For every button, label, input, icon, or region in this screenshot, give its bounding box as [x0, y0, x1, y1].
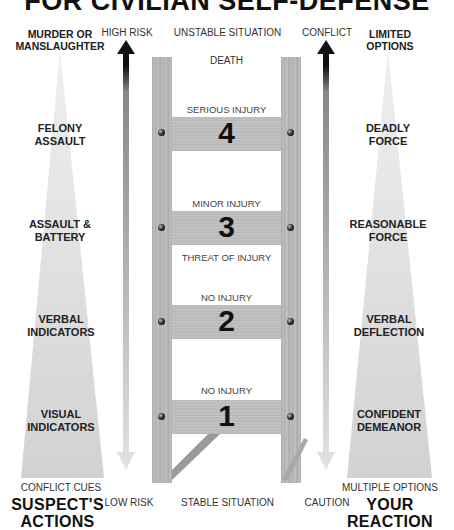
right-top-label: LIMITED OPTIONS: [362, 28, 418, 52]
rung-3: 3: [172, 211, 281, 245]
unstable-situation-label: UNSTABLE SITUATION: [170, 27, 285, 38]
rung-1: 1: [172, 400, 281, 434]
rung-4-label: SERIOUS INJURY: [172, 104, 281, 115]
bolt-icon: [287, 413, 294, 420]
ladder-brace: [170, 434, 310, 484]
rung-2-label: NO INJURY: [172, 292, 281, 303]
bolt-icon: [158, 129, 165, 136]
right-level-confident-demeanor: CONFIDENT DEMEANOR: [350, 408, 428, 434]
conflict-label: CONFLICT: [300, 27, 354, 38]
left-level-visual-indicators: VISUAL INDICATORS: [20, 408, 102, 434]
right-level-reasonable-force: REASONABLE FORCE: [346, 218, 430, 244]
right-level-verbal-deflection: VERBAL DEFLECTION: [350, 313, 428, 339]
bolt-icon: [158, 224, 165, 231]
left-level-felony-assault: FELONY ASSAULT: [20, 122, 100, 148]
rung-4: 4: [172, 117, 281, 151]
diagram-title: FOR CIVILIAN SELF-DEFENSE: [0, 0, 454, 17]
rung-3-number: 3: [172, 210, 281, 244]
bolt-icon: [287, 129, 294, 136]
bolt-icon: [287, 318, 294, 325]
multiple-options-label: MULTIPLE OPTIONS: [342, 482, 438, 493]
left-level-assault-battery: ASSAULT & BATTERY: [20, 218, 100, 244]
bolt-icon: [158, 413, 165, 420]
rung-3-label: MINOR INJURY: [172, 198, 281, 209]
high-risk-label: HIGH RISK: [100, 27, 154, 38]
rung-2-number: 2: [172, 304, 281, 338]
rung-4-top-label: DEATH: [172, 55, 281, 66]
right-level-deadly-force: DEADLY FORCE: [352, 122, 424, 148]
rung-4-number: 4: [172, 116, 281, 150]
low-risk-label: LOW RISK: [104, 497, 154, 508]
stable-situation-label: STABLE SITUATION: [170, 497, 285, 508]
conflict-arrow: [317, 40, 335, 472]
left-level-verbal-indicators: VERBAL INDICATORS: [20, 313, 102, 339]
conflict-cues-label: CONFLICT CUES: [15, 482, 107, 493]
bolt-icon: [158, 318, 165, 325]
rung-1-label: NO INJURY: [172, 385, 281, 396]
rung-1-number: 1: [172, 399, 281, 433]
rung-2: 2: [172, 305, 281, 339]
bolt-icon: [287, 224, 294, 231]
risk-arrow: [117, 40, 135, 472]
your-reaction-heading: YOUR REACTION: [345, 496, 435, 530]
suspects-actions-heading: SUSPECT'S ACTIONS: [10, 496, 105, 530]
rung-2-top-label: THREAT OF INJURY: [172, 252, 281, 263]
